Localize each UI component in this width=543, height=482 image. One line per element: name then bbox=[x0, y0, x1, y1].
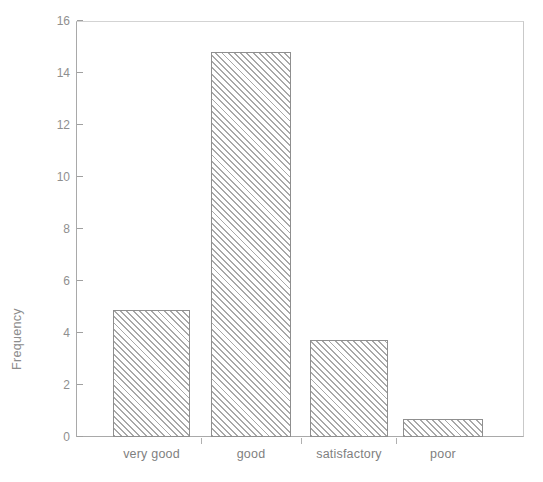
bar bbox=[113, 310, 190, 437]
y-axis-tick bbox=[77, 436, 83, 437]
y-axis-tick-label: 16 bbox=[40, 15, 70, 27]
y-axis-tick-label-text: 8 bbox=[44, 223, 70, 235]
y-axis-tick-label-text: 4 bbox=[44, 327, 70, 339]
x-axis-tick bbox=[201, 438, 202, 444]
y-axis-tick-label-text: 6 bbox=[44, 275, 70, 287]
y-axis-tick bbox=[77, 20, 83, 21]
y-axis-tick bbox=[77, 228, 83, 229]
y-axis-tick-label-text: 10 bbox=[44, 171, 70, 183]
bar bbox=[211, 52, 291, 437]
y-axis-tick-label: 8 bbox=[40, 223, 70, 235]
y-axis-tick-label: 4 bbox=[40, 327, 70, 339]
y-axis-tick-label: 10 bbox=[40, 171, 70, 183]
x-axis-tick bbox=[396, 438, 397, 444]
y-axis-tick bbox=[77, 332, 83, 333]
x-axis-category-label: poor bbox=[383, 447, 503, 461]
y-axis-tick-label-text: 2 bbox=[44, 379, 70, 391]
y-axis-tick-label: 2 bbox=[40, 379, 70, 391]
y-axis-tick-label: 14 bbox=[40, 67, 70, 79]
y-axis-tick bbox=[77, 280, 83, 281]
y-axis-title: Frequency bbox=[10, 284, 24, 394]
y-axis-tick bbox=[77, 124, 83, 125]
bar bbox=[403, 419, 483, 437]
y-axis-tick bbox=[77, 72, 83, 73]
y-axis-tick-label-text: 16 bbox=[44, 15, 70, 27]
bar-chart: Frequency 0246810121416 very goodgoodsat… bbox=[0, 0, 543, 482]
y-axis-tick-label: 0 bbox=[40, 431, 70, 443]
y-axis-tick-label-text: 0 bbox=[44, 431, 70, 443]
y-axis-tick bbox=[77, 176, 83, 177]
y-axis-tick-label: 12 bbox=[40, 119, 70, 131]
y-axis-tick bbox=[77, 384, 83, 385]
x-axis-tick bbox=[301, 438, 302, 444]
y-axis-tick-label: 6 bbox=[40, 275, 70, 287]
bar bbox=[310, 340, 388, 438]
y-axis-tick-label-text: 14 bbox=[44, 67, 70, 79]
y-axis-tick-label-text: 12 bbox=[44, 119, 70, 131]
